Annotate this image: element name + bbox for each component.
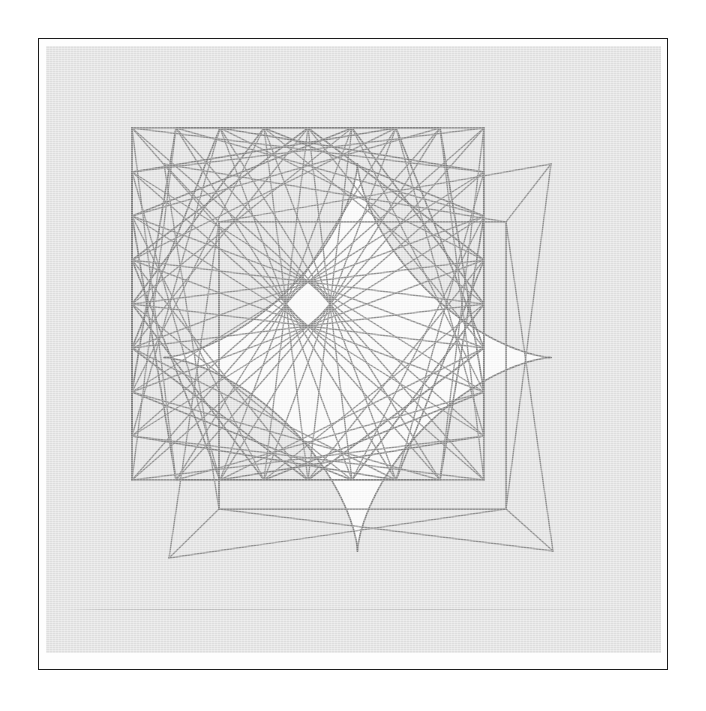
- astroid-figure: [46, 46, 661, 653]
- cusp-spoke: [506, 222, 553, 551]
- cusp-spoke: [169, 509, 219, 558]
- plate-grey-field: [46, 46, 661, 653]
- cusp-spoke: [169, 509, 506, 558]
- cusp-spoke: [506, 509, 553, 551]
- page-root: [0, 0, 706, 711]
- cusp-spoke: [506, 164, 551, 509]
- plate-frame: [38, 38, 668, 670]
- cusp-spoke: [219, 509, 553, 551]
- plate-paper: [39, 39, 667, 669]
